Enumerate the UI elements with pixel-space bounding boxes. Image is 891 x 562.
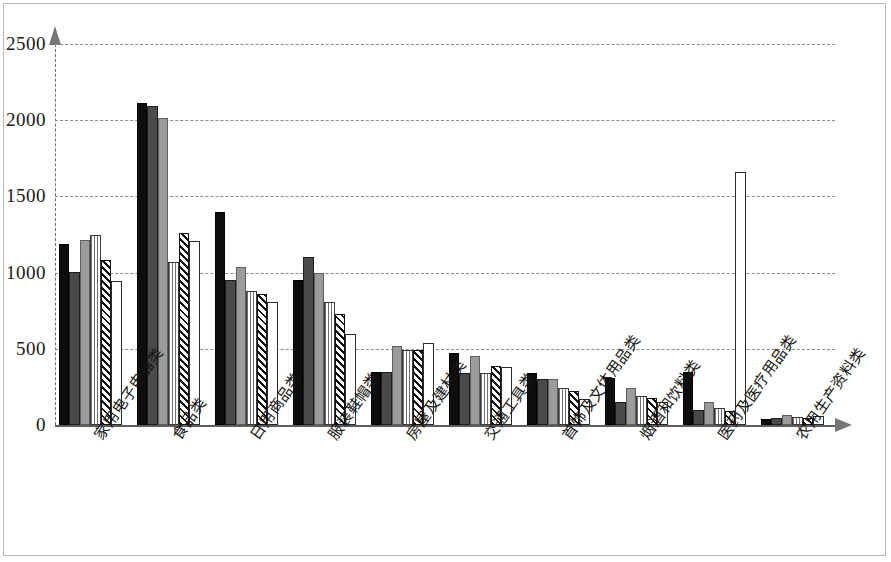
- bar: [626, 388, 637, 425]
- bar: [392, 346, 403, 425]
- bar: [771, 418, 782, 425]
- bar: [782, 415, 793, 425]
- x-axis-arrow-icon: [835, 418, 852, 432]
- y-tick-label: 1500: [6, 185, 46, 207]
- bar: [324, 302, 335, 425]
- bar: [615, 402, 626, 425]
- bar: [314, 273, 325, 425]
- bar: [90, 235, 101, 425]
- bar: [470, 356, 481, 425]
- y-tick-label: 2500: [6, 33, 46, 55]
- bar: [303, 257, 314, 425]
- bar: [236, 267, 247, 425]
- y-axis-line: [55, 44, 56, 425]
- bar: [69, 272, 80, 425]
- bar: [225, 280, 236, 425]
- y-tick-label: 2000: [6, 109, 46, 131]
- bar: [179, 233, 190, 425]
- y-tick-label: 500: [16, 338, 46, 360]
- bar: [80, 240, 91, 425]
- bar: [693, 410, 704, 425]
- bar-group: [215, 44, 278, 425]
- bar: [168, 262, 179, 425]
- y-tick-label: 0: [36, 414, 46, 436]
- chart-figure: 05001000150020002500 家用电子电器类食品类日用商品类服装鞋帽…: [0, 0, 891, 562]
- bar: [215, 212, 226, 425]
- y-axis-arrow-icon: [49, 26, 61, 45]
- bar: [537, 379, 548, 425]
- bar: [704, 402, 715, 425]
- bar: [59, 244, 70, 425]
- category-labels: 家用电子电器类食品类日用商品类服装鞋帽类房屋及建材类交通工具类首饰及文体用品类烟…: [55, 425, 835, 562]
- bar-group: [59, 44, 122, 425]
- bar-group: [371, 44, 434, 425]
- bar-group: [527, 44, 590, 425]
- bar: [158, 118, 169, 425]
- bar-group: [293, 44, 356, 425]
- bar: [548, 379, 559, 425]
- bar: [293, 280, 304, 425]
- bar: [246, 291, 257, 425]
- y-tick-label: 1000: [6, 262, 46, 284]
